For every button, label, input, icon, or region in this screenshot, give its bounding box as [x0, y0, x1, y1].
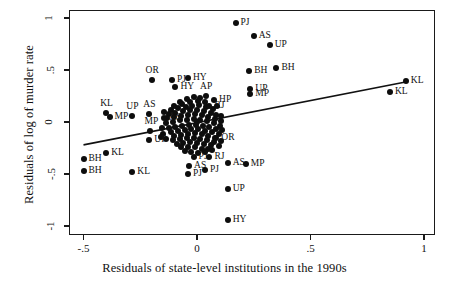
- y-tick-mark: [64, 225, 69, 226]
- y-tick-label: 0: [43, 119, 54, 125]
- y-tick-label: .5: [45, 66, 56, 74]
- y-axis-title: Residuals of log of murder rate: [22, 15, 37, 235]
- x-tick-label: -.5: [78, 243, 90, 254]
- y-tick-mark: [64, 17, 69, 18]
- x-tick-mark: [423, 235, 424, 240]
- plot-frame: [69, 10, 435, 235]
- x-axis-title: Residuals of state-level institutions in…: [0, 261, 449, 276]
- y-tick-label: 1: [43, 15, 54, 21]
- y-tick-label: -.5: [46, 168, 57, 180]
- y-tick-mark: [64, 173, 69, 174]
- x-tick-mark: [310, 235, 311, 240]
- y-tick-label: -1: [45, 221, 56, 230]
- x-tick-mark: [83, 235, 84, 240]
- scatter-plot-figure: PJASUPBHBHKLKLORPJHYHYUPMPAPHPRJKLMPUPAS…: [0, 0, 449, 293]
- x-tick-label: .5: [306, 243, 314, 254]
- y-tick-mark: [64, 69, 69, 70]
- y-tick-mark: [64, 121, 69, 122]
- x-tick-label: 1: [421, 243, 427, 254]
- x-tick-label: 0: [194, 243, 200, 254]
- x-tick-mark: [196, 235, 197, 240]
